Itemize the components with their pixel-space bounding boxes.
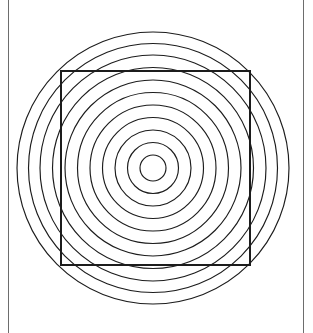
- diagram-page: [0, 0, 313, 333]
- concentric-circle-5: [90, 105, 216, 231]
- concentric-circle-6: [78, 93, 229, 244]
- concentric-circle-group: [17, 32, 289, 304]
- concentric-circle-9: [40, 55, 266, 281]
- concentric-circle-10: [29, 44, 278, 293]
- concentric-circles-figure: [0, 0, 313, 333]
- concentric-circle-7: [65, 80, 241, 256]
- inscribed-square: [61, 71, 250, 265]
- concentric-circle-1: [140, 155, 166, 181]
- concentric-circle-3: [115, 130, 191, 206]
- concentric-circle-2: [128, 143, 179, 194]
- concentric-circle-4: [103, 118, 204, 219]
- concentric-circle-11: [17, 32, 289, 304]
- concentric-circle-8: [53, 68, 254, 269]
